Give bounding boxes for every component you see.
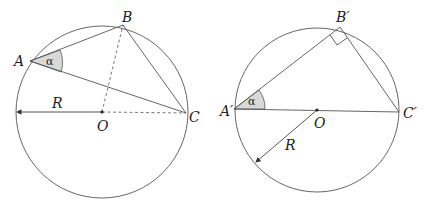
- left-label-b: B: [121, 9, 132, 25]
- left-figure: A B C O R α: [12, 9, 200, 198]
- right-label-b: B′: [335, 9, 350, 25]
- left-side-ab: [30, 25, 123, 61]
- left-label-alpha: α: [46, 55, 54, 68]
- left-dashed-radius-ob: [102, 25, 123, 112]
- right-label-a: A′: [218, 103, 234, 119]
- right-label-c: C′: [403, 105, 418, 121]
- left-center-dot: [100, 110, 103, 113]
- left-label-r: R: [51, 95, 63, 111]
- left-label-a: A: [12, 53, 24, 69]
- right-label-alpha: α: [248, 95, 256, 108]
- left-dashed-radius-oc: [102, 112, 186, 113]
- right-label-o: O: [314, 115, 326, 131]
- inscribed-angle-diagram: A B C O R α A′ B′ C′ O R α: [0, 0, 425, 220]
- right-radius-arrow: [256, 110, 317, 162]
- right-label-r: R: [284, 137, 296, 153]
- right-angle-marker: [330, 35, 347, 45]
- right-side-bc: [340, 27, 399, 112]
- left-label-c: C: [189, 109, 200, 125]
- right-center-dot: [315, 108, 318, 111]
- right-figure: A′ B′ C′ O R α: [218, 9, 418, 192]
- left-label-o: O: [97, 118, 109, 134]
